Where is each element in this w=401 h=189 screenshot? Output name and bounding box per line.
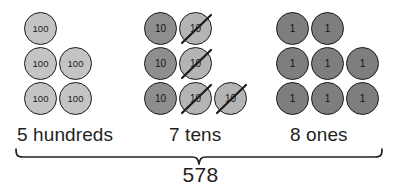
disc-row: 100 [24, 12, 94, 47]
disc-row: 1 1 1 [276, 47, 381, 82]
disc-value: 10 [155, 59, 166, 69]
disc-row: 1 1 [276, 12, 381, 47]
disc-row: 10 10 [144, 47, 249, 82]
disc-value: 10 [190, 94, 201, 104]
disc-value: 100 [68, 59, 84, 69]
place-value-disc-crossed-out[interactable]: 10 [179, 12, 212, 45]
disc-value: 10 [155, 94, 166, 104]
disc-value: 100 [33, 59, 49, 69]
disc-row: 10 10 10 [144, 82, 249, 117]
place-value-disc[interactable]: 1 [276, 12, 309, 45]
place-value-disc-crossed-out[interactable]: 10 [214, 82, 247, 115]
disc-value: 10 [225, 94, 236, 104]
place-value-disc[interactable]: 1 [311, 12, 344, 45]
disc-value: 1 [360, 59, 366, 69]
disc-value: 1 [290, 59, 296, 69]
place-value-disc[interactable]: 1 [311, 82, 344, 115]
disc-group-hundreds: 100 100 100 100 100 [24, 12, 94, 117]
place-value-disc[interactable]: 10 [144, 47, 177, 80]
place-label-hundreds: 5 hundreds [17, 124, 113, 146]
place-value-diagram: 100 100 100 100 100 10 10 [0, 0, 401, 189]
disc-value: 1 [290, 24, 296, 34]
place-value-disc[interactable]: 1 [346, 82, 379, 115]
place-label-tens: 7 tens [169, 124, 221, 146]
place-value-disc[interactable]: 1 [346, 47, 379, 80]
place-value-disc[interactable]: 100 [24, 12, 57, 45]
disc-row: 100 100 [24, 82, 94, 117]
disc-value: 100 [68, 94, 84, 104]
disc-group-ones: 1 1 1 1 1 1 1 1 [276, 12, 381, 117]
disc-value: 1 [325, 94, 331, 104]
disc-value: 100 [33, 94, 49, 104]
disc-value: 1 [325, 59, 331, 69]
disc-row: 10 10 [144, 12, 249, 47]
place-value-disc[interactable]: 10 [144, 12, 177, 45]
place-value-disc[interactable]: 100 [59, 82, 92, 115]
disc-row: 100 100 [24, 47, 94, 82]
disc-group-tens: 10 10 10 10 10 [144, 12, 249, 117]
place-value-disc-crossed-out[interactable]: 10 [179, 82, 212, 115]
place-value-disc-crossed-out[interactable]: 10 [179, 47, 212, 80]
disc-value: 1 [360, 94, 366, 104]
total-value: 578 [0, 163, 401, 187]
disc-value: 100 [33, 24, 49, 34]
place-value-disc[interactable]: 100 [24, 82, 57, 115]
place-value-disc[interactable]: 10 [144, 82, 177, 115]
place-value-disc[interactable]: 100 [24, 47, 57, 80]
place-value-disc[interactable]: 1 [311, 47, 344, 80]
disc-value: 1 [325, 24, 331, 34]
place-value-disc[interactable]: 1 [276, 47, 309, 80]
disc-value: 10 [190, 59, 201, 69]
disc-value: 10 [155, 24, 166, 34]
disc-value: 1 [290, 94, 296, 104]
place-value-disc[interactable]: 100 [59, 47, 92, 80]
disc-value: 10 [190, 24, 201, 34]
disc-row: 1 1 1 [276, 82, 381, 117]
place-value-disc[interactable]: 1 [276, 82, 309, 115]
place-label-ones: 8 ones [290, 124, 348, 146]
